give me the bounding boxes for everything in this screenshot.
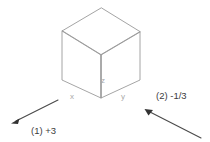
cube-vector-figure: x y z (1) +3 (2) -1/3	[0, 0, 210, 142]
axis-label-y: y	[121, 92, 125, 101]
vector-2-label: (2) -1/3	[156, 90, 187, 101]
axis-label-z: z	[101, 76, 105, 85]
vector-1-label: (1) +3	[31, 125, 56, 136]
canvas-background	[0, 0, 210, 142]
figure-canvas: x y z (1) +3 (2) -1/3	[0, 0, 210, 142]
axis-label-x: x	[70, 92, 74, 101]
